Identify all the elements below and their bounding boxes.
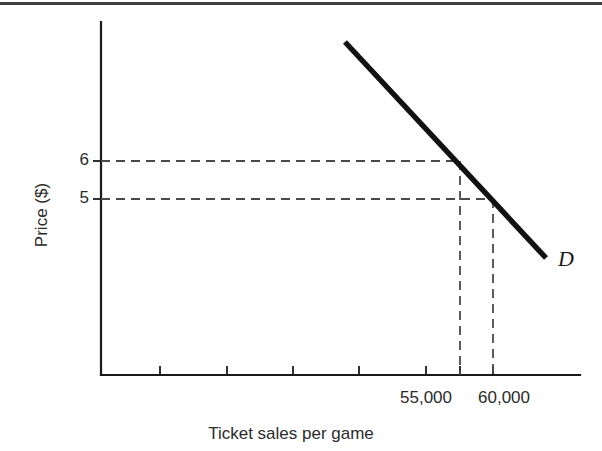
plot-area: [0, 0, 602, 451]
x-tick-label-60000: 60,000: [478, 389, 530, 406]
y-tick-label-6: 6: [63, 151, 89, 168]
x-axis-title: Ticket sales per game: [101, 424, 481, 444]
demand-curve-figure: 6 5 55,000 60,000 Price ($) Ticket sales…: [0, 0, 602, 451]
y-axis-title: Price ($): [32, 145, 52, 285]
y-tick-label-5: 5: [63, 189, 89, 206]
demand-curve: [345, 42, 546, 258]
demand-curve-label: D: [558, 248, 574, 270]
x-tick-label-55000: 55,000: [400, 389, 452, 406]
